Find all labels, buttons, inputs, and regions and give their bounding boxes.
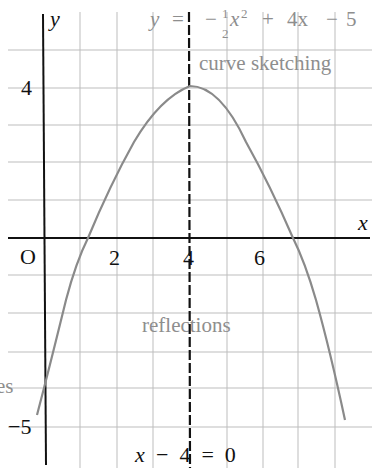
partial-text-left: es (0, 374, 14, 398)
y-axis (43, 14, 46, 465)
axis-of-symmetry-line (189, 12, 190, 468)
svg-text:4x: 4x (287, 7, 309, 31)
y-tick-4: 4 (21, 75, 32, 100)
svg-text:2: 2 (222, 26, 229, 41)
svg-text:+: + (262, 7, 274, 31)
y-tick-neg5: −5 (8, 414, 31, 439)
svg-text:−: − (326, 7, 338, 31)
curve-sketching-text: curve sketching (199, 51, 332, 75)
svg-text:y: y (148, 7, 160, 31)
equation-label: y = − 1 2 x 2 + 4x − 5 (148, 6, 357, 41)
symmetry-label-rest: − 4 = 0 (156, 442, 236, 467)
y-axis-label: y (48, 6, 60, 31)
svg-text:−: − (205, 7, 217, 31)
x-tick-6: 6 (254, 245, 265, 270)
svg-text:1: 1 (222, 6, 229, 21)
origin-label: O (20, 244, 36, 269)
symmetry-label-x: x (134, 442, 145, 467)
x-axis-label: x (357, 210, 368, 235)
x-tick-4: 4 (183, 245, 194, 270)
svg-text:5: 5 (346, 7, 357, 31)
svg-text:=: = (172, 7, 184, 31)
x-tick-2: 2 (109, 245, 120, 270)
svg-text:2: 2 (241, 6, 248, 21)
graph: curve sketching reflections es y = − 1 2… (0, 0, 384, 471)
reflections-text: reflections (142, 313, 231, 337)
svg-text:x: x (229, 7, 240, 31)
